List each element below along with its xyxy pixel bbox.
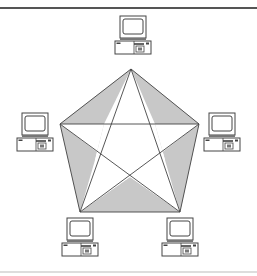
mesh-network-diagram	[0, 0, 257, 276]
computer-icon-bottom-left	[62, 218, 98, 256]
computer-icon-top	[115, 16, 151, 54]
computer-icon-left	[17, 113, 53, 151]
computer-icon-bottom-right	[162, 218, 198, 256]
computer-icon-right	[204, 113, 240, 151]
